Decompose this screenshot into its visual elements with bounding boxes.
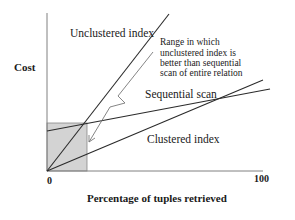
y-axis-label: Cost bbox=[14, 61, 36, 73]
sequential-scan-label: Sequential scan bbox=[145, 88, 217, 101]
annotation-line-1: Range in which bbox=[160, 37, 220, 47]
x-tick-zero: 0 bbox=[47, 175, 52, 186]
cost-diagram: Unclustered index Range in which unclust… bbox=[0, 0, 295, 220]
x-axis-label: Percentage of tuples retrieved bbox=[87, 192, 227, 204]
arrowhead-icon bbox=[89, 135, 95, 142]
range-arrow-icon bbox=[89, 52, 153, 142]
annotation-line-4: scan of entire relation bbox=[160, 68, 243, 78]
annotation-line-2: unclustered index is bbox=[160, 48, 236, 58]
x-tick-hundred: 100 bbox=[254, 173, 269, 184]
clustered-index-label: Clustered index bbox=[147, 133, 220, 145]
unclustered-index-label: Unclustered index bbox=[70, 27, 154, 39]
annotation-line-3: better than sequential bbox=[160, 58, 242, 68]
